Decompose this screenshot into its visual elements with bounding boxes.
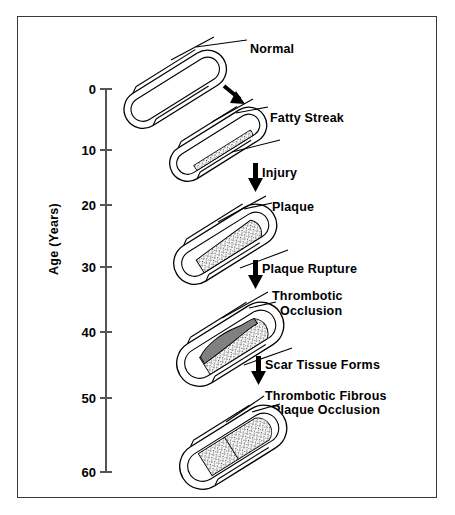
- arrow-injury: [248, 163, 263, 192]
- arrow-normal-to-fatty-streak: [224, 86, 245, 104]
- vessel-plaque: [164, 193, 285, 292]
- vessel-normal: [115, 40, 234, 136]
- y-axis: [100, 89, 112, 472]
- vessel-thrombotic-fibrous-plaque-occlusion: [169, 393, 296, 498]
- leader-line-normal: [196, 40, 247, 47]
- atherosclerosis-progression-figure: Age (Years) 0 10 20 30 40 50 60 Normal F…: [0, 0, 455, 515]
- diagram-graphics: [0, 0, 455, 515]
- vessel-thrombotic-occlusion: [166, 290, 293, 395]
